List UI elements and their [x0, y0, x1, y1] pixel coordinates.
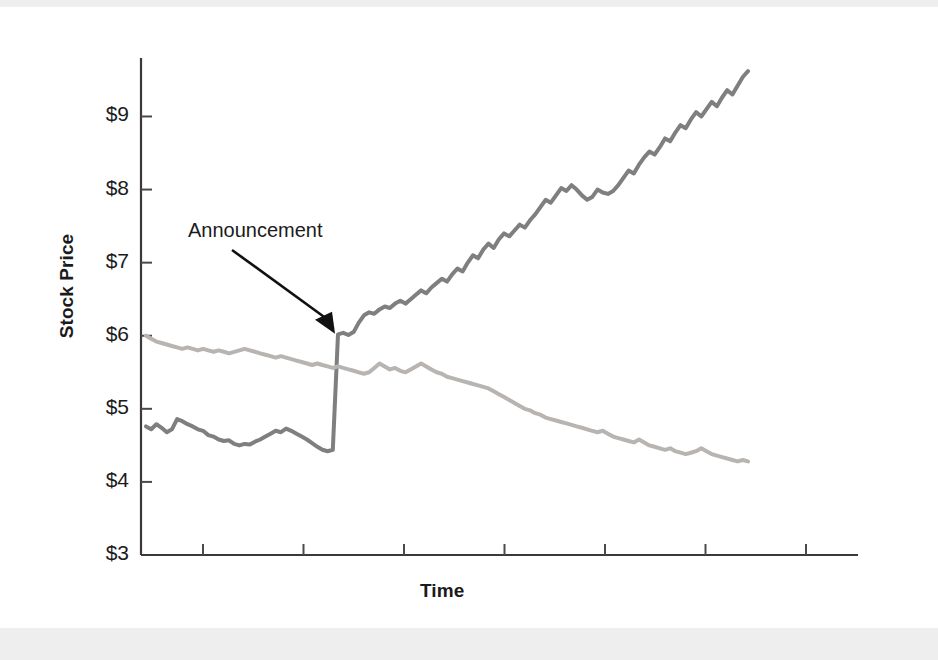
y-axis-title: Stock Price: [56, 216, 78, 356]
y-axis-tick-label: $9: [81, 102, 129, 126]
y-axis-tick-label: $6: [81, 322, 129, 346]
x-axis-title: Time: [420, 580, 464, 602]
page-top-margin: [0, 0, 938, 7]
page-bottom-margin: [0, 628, 938, 660]
annotation-arrow-shaft: [232, 250, 328, 320]
axes: [141, 58, 858, 555]
figure-canvas: $9$8$7$6$5$4$3 Stock Price Time Announce…: [0, 7, 938, 628]
series-line-good-news-path: [146, 71, 748, 451]
y-axis-tick-label: $7: [81, 249, 129, 273]
y-axis-tick-label: $4: [81, 468, 129, 492]
y-axis-tick-label: $8: [81, 176, 129, 200]
y-axis-tick-label: $3: [81, 541, 129, 565]
announcement-annotation-label: Announcement: [188, 219, 323, 242]
annotation-arrow: [232, 250, 335, 334]
chart-page: $9$8$7$6$5$4$3 Stock Price Time Announce…: [0, 0, 938, 660]
data-series: [146, 71, 748, 461]
annotation-arrow-head: [315, 312, 335, 334]
y-axis-tick-label: $5: [81, 395, 129, 419]
stock-price-line-chart: [0, 7, 938, 628]
